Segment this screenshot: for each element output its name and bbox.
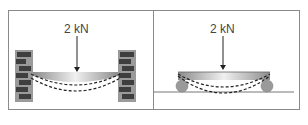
right-roller-icon xyxy=(261,80,273,92)
beam-diagram-graphics xyxy=(0,0,308,125)
right-load-arrow-icon xyxy=(220,36,226,70)
left-roller-icon xyxy=(176,80,188,92)
right-beam xyxy=(178,72,270,80)
left-brick-wall-icon xyxy=(15,50,33,102)
right-brick-wall-icon xyxy=(118,50,136,102)
left-load-arrow-icon xyxy=(74,36,80,72)
